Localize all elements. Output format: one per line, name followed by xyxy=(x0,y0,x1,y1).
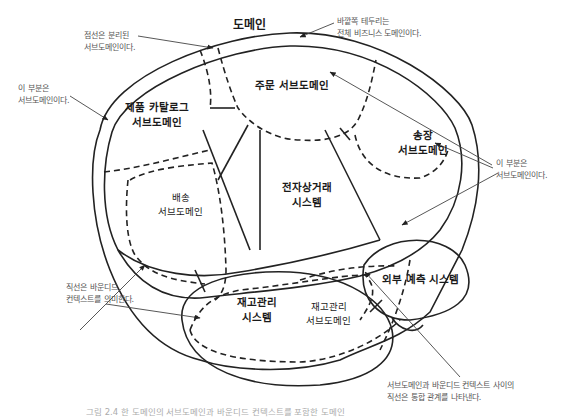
dashed-lines-note: 점선은 분리된 서브도메인이다. xyxy=(84,30,136,54)
right-subdomain-note: 이 부분은 서브도메인이다. xyxy=(496,158,548,182)
inventory-subdomain-label: 재고관리 서브도메인 xyxy=(306,300,351,328)
figure-caption: 그림 2.4 한 도메인의 서브도메인과 바운디드 컨텍스트를 포함한 도메인 xyxy=(86,405,345,417)
inventory-system-label: 재고관리 시스템 xyxy=(237,295,277,325)
integration-note: 서브도메인과 바운디드 컨텍스트 사이의 직선은 통합 관계를 나타낸다. xyxy=(387,380,514,404)
left-subdomain-note: 이 부분은 서브도메인이다. xyxy=(18,83,70,107)
ecommerce-system-label: 전자상거래 시스템 xyxy=(282,180,332,210)
order-subdomain-label: 주문 서브도메인 xyxy=(255,78,329,93)
domain-title: 도메인 xyxy=(233,15,266,32)
invoice-subdomain-label: 송장 서브도메인 xyxy=(398,128,448,158)
shipping-subdomain-label: 배송 서브도메인 xyxy=(158,191,203,219)
product-catalog-subdomain-label: 제품 카탈로그 서브도메인 xyxy=(125,100,189,130)
outer-border-note: 바깥쪽 테두리는 전체 비즈니스 도메인이다. xyxy=(337,16,422,40)
external-forecast-system-label: 외부 예측 시스템 xyxy=(382,272,459,287)
solid-lines-note: 직선은 바운디드 컨텍스트를 의미한다. xyxy=(66,282,134,306)
